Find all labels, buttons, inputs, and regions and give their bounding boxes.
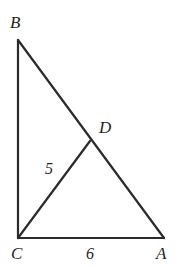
geometry-canvas (0, 0, 180, 268)
vertex-label-a: A (156, 245, 166, 262)
segment-cd (18, 141, 90, 238)
vertex-label-d: D (99, 119, 111, 136)
length-label-cd: 5 (45, 161, 53, 177)
geometry-figure: B D C A 5 6 (0, 0, 180, 268)
length-label-ca: 6 (86, 246, 94, 262)
vertex-label-c: C (11, 245, 22, 262)
vertex-label-b: B (10, 14, 20, 31)
